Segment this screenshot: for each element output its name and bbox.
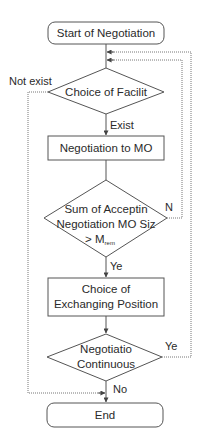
choice-exchanging-line2: Exchanging Position — [54, 298, 158, 310]
label-n: N — [165, 201, 173, 213]
negotiation-continuous-decision: Negotiatio Continuous — [47, 334, 162, 381]
choice-exchanging-line1: Choice of — [82, 283, 131, 295]
choice-exchanging-process: Choice of Exchanging Position — [48, 278, 164, 316]
negotiation-mo-label: Negotiation to MO — [60, 142, 153, 154]
negotiation-mo-process: Negotiation to MO — [48, 136, 164, 160]
end-node: End — [47, 403, 163, 427]
start-node: Start of Negotiation — [48, 22, 164, 44]
choice-facility-label: Choice of Facilit — [65, 86, 148, 98]
negotiation-continuous-line1: Negotiatio — [80, 343, 132, 355]
sum-check-decision: Sum of Acceptin Negotiation MO Siz > Mre… — [44, 180, 167, 257]
sum-check-line2: Negotiation MO Siz — [56, 218, 155, 230]
label-no: No — [113, 383, 127, 395]
sum-check-line1: Sum of Acceptin — [64, 203, 147, 215]
negotiation-flowchart: Start of Negotiation Choice of Facilit N… — [0, 0, 202, 446]
label-ye-sum: Ye — [110, 260, 122, 272]
label-not-exist: Not exist — [9, 75, 52, 87]
start-label: Start of Negotiation — [57, 27, 155, 39]
label-exist: Exist — [110, 119, 134, 131]
choice-facility-decision: Choice of Facilit — [48, 68, 164, 114]
label-ye-continue: Ye — [165, 340, 177, 352]
end-label: End — [95, 409, 115, 421]
negotiation-continuous-line2: Continuous — [77, 358, 135, 370]
